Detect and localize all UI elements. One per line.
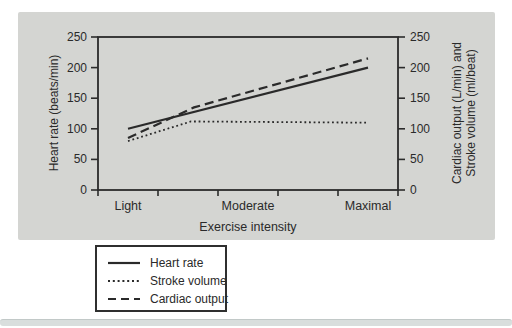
dotted-line-swatch-icon	[107, 278, 141, 284]
legend-label-stroke-volume: Stroke volume	[150, 274, 227, 288]
page-edge-bar	[0, 319, 512, 326]
y-axis-right-tick-label: 0	[410, 182, 448, 198]
x-axis-title: Exercise intensity	[148, 220, 348, 234]
y-axis-right-tick-label: 200	[410, 60, 448, 76]
legend-item-stroke-volume: Stroke volume	[107, 272, 225, 290]
x-category-label-maximal: Maximal	[323, 199, 413, 213]
y-axis-right-tick-label: 100	[410, 121, 448, 137]
y-axis-right-title: Cardiac output (L/min) and Stroke volume…	[451, 42, 478, 184]
legend-item-cardiac-output: Cardiac output	[107, 290, 225, 308]
y-axis-right-tick-label: 150	[410, 90, 448, 106]
y-axis-right-title-line1: Cardiac output (L/min) and	[451, 42, 465, 184]
legend-label-cardiac-output: Cardiac output	[150, 292, 228, 306]
x-category-label-moderate: Moderate	[203, 199, 293, 213]
dashed-line-swatch-icon	[107, 296, 141, 302]
y-axis-left-tick-label: 0	[49, 182, 87, 198]
solid-line-swatch-icon	[107, 260, 141, 266]
legend-label-heart-rate: Heart rate	[150, 256, 203, 270]
chart-legend: Heart rate Stroke volume Cardiac output	[95, 245, 227, 312]
x-category-label-light: Light	[83, 199, 173, 213]
y-axis-right-title-line2: Stroke volume (ml/beat)	[464, 42, 478, 184]
legend-item-heart-rate: Heart rate	[107, 254, 225, 272]
figure-canvas: 050100150200250 050100150200250 LightMod…	[0, 0, 512, 328]
y-axis-left-tick-label: 250	[49, 29, 87, 45]
y-axis-right-tick-label: 250	[410, 29, 448, 45]
y-axis-right-tick-label: 50	[410, 151, 448, 167]
y-axis-left-title: Heart rate (beats/min)	[47, 55, 61, 172]
